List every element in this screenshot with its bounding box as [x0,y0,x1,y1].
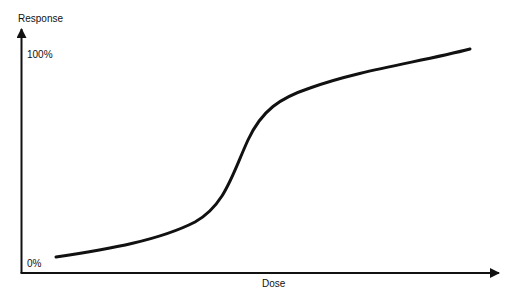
dose-response-curve [56,49,470,257]
chart-canvas [0,0,511,302]
